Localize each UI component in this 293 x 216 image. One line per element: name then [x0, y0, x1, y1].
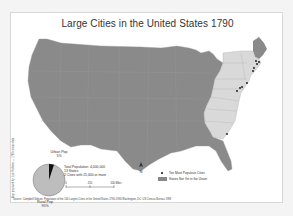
urban-pop-label: Urban Pop 5%	[47, 150, 71, 158]
scale-bar: 0 250 500 Miles	[64, 179, 124, 191]
svg-text:N: N	[140, 169, 143, 174]
map-legend: Ten Most Populous Cities States Not Yet …	[158, 170, 207, 182]
city-dot-icon	[161, 172, 163, 174]
legend-territory: States Not Yet in the Union	[158, 176, 207, 182]
svg-text:250: 250	[88, 181, 93, 185]
north-arrow-icon: N	[138, 161, 144, 175]
territory-swatch-icon	[158, 177, 167, 181]
large-city-count: 2 Cities with 25,000 or more	[64, 173, 106, 177]
population-summary: Total Population: 4,000,000 13 States 2 …	[64, 165, 106, 177]
pie-graphic	[29, 160, 69, 200]
source-citation: Source: Campbell Gibson, Population of t…	[13, 198, 171, 201]
svg-text:0: 0	[65, 181, 67, 185]
map-frame: Large Cities in the United States 1790	[10, 12, 283, 203]
map-credit: Map prepared by: Lyle Rollston — 1790 ce…	[12, 138, 16, 198]
svg-text:500 Miles: 500 Miles	[110, 181, 122, 185]
scale-bar-graphic: 0 250 500 Miles	[64, 181, 124, 193]
rural-pop-label: Rural Pop 95%	[33, 200, 57, 208]
maine-region	[253, 37, 267, 59]
